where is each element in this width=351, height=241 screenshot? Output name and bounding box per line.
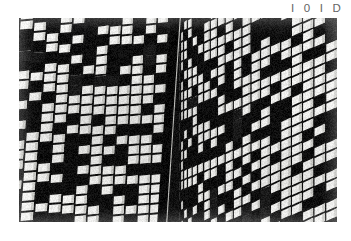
figure-label: I 0 I D — [291, 1, 344, 15]
page-root: I 0 I D — [0, 0, 351, 241]
building-facade-photograph — [19, 18, 337, 222]
facade-canvas — [19, 18, 337, 222]
